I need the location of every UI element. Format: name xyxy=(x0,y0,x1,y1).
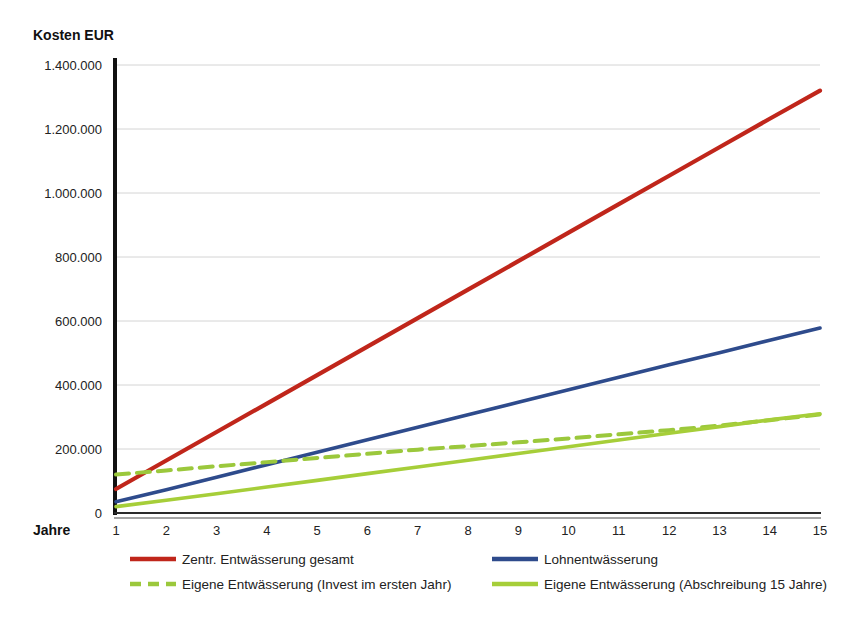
x-axis-tick-label: 3 xyxy=(213,523,220,538)
x-axis-tick-label: 5 xyxy=(314,523,321,538)
cost-comparison-line-chart: Kosten EUR Jahre 0200.000400.000600.0008… xyxy=(0,0,843,622)
x-axis-tick-label: 2 xyxy=(163,523,170,538)
x-axis-tick-label: 11 xyxy=(612,523,626,538)
x-axis-tick-label: 7 xyxy=(414,523,421,538)
y-axis-tick-label: 1.400.000 xyxy=(44,58,102,73)
y-axis-title: Kosten EUR xyxy=(33,27,114,43)
x-axis-tick-labels: 123456789101112131415 xyxy=(112,523,827,538)
x-axis-tick-label: 14 xyxy=(762,523,776,538)
x-axis-tick-label: 1 xyxy=(112,523,119,538)
x-axis-tick-label: 8 xyxy=(464,523,471,538)
legend-label: Zentr. Entwässerung gesamt xyxy=(182,552,354,567)
y-axis-tick-label: 200.000 xyxy=(55,442,102,457)
y-axis-tick-label: 800.000 xyxy=(55,250,102,265)
y-axis-tick-label: 1.200.000 xyxy=(44,122,102,137)
x-axis-tick-label: 13 xyxy=(712,523,726,538)
x-axis-tick-label: 6 xyxy=(364,523,371,538)
y-axis-tick-label: 600.000 xyxy=(55,314,102,329)
x-axis-tick-label: 4 xyxy=(263,523,270,538)
y-axis-tick-label: 0 xyxy=(95,506,102,521)
legend-label: Eigene Entwässerung (Invest im ersten Ja… xyxy=(182,577,451,592)
x-axis-tick-label: 15 xyxy=(813,523,827,538)
x-axis-title: Jahre xyxy=(33,522,71,538)
x-axis-tick-label: 9 xyxy=(515,523,522,538)
x-axis-tick-label: 12 xyxy=(662,523,676,538)
y-axis-tick-label: 1.000.000 xyxy=(44,186,102,201)
x-axis-tick-label: 10 xyxy=(561,523,575,538)
legend-label: Lohnentwässerung xyxy=(544,552,658,567)
y-axis-tick-label: 400.000 xyxy=(55,378,102,393)
legend-label: Eigene Entwässerung (Abschreibung 15 Jah… xyxy=(544,577,827,592)
